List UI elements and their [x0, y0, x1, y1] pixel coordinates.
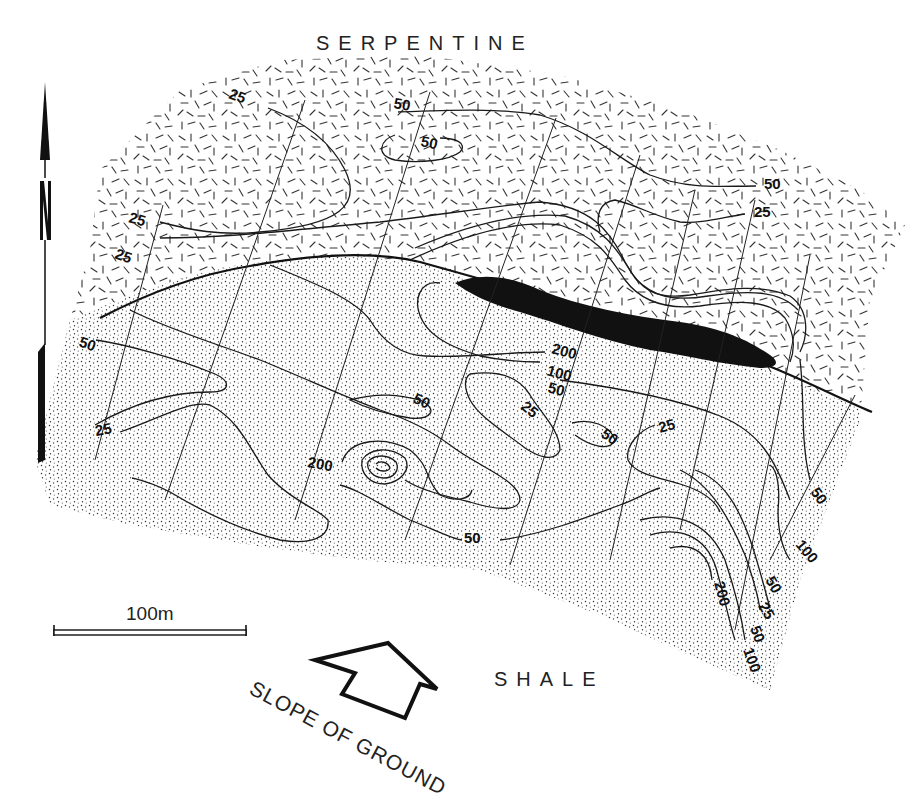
- geological-contour-map: SERPENTINE: [0, 0, 918, 802]
- contour-label: 50: [464, 529, 481, 546]
- scale-bar-label: 100m: [126, 603, 174, 624]
- serpentine-region-label: SERPENTINE: [316, 32, 534, 54]
- shale-region-label: SHALE: [494, 668, 605, 690]
- contour-label: 50: [764, 175, 781, 192]
- contour-label: 25: [94, 419, 113, 439]
- contour-label: 50: [419, 132, 439, 152]
- scale-bar: 100m: [54, 603, 246, 636]
- contour-label: 25: [754, 203, 771, 220]
- slope-arrow-icon: [315, 643, 437, 718]
- contour-label: 50: [392, 94, 411, 114]
